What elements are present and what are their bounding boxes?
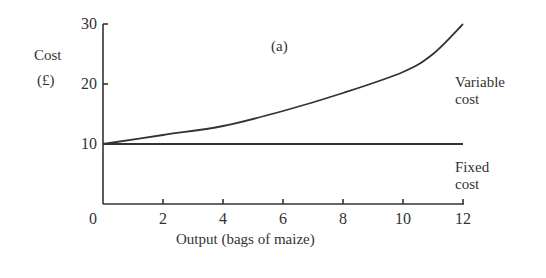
x-axis-label: Output (bags of maize) <box>176 231 315 248</box>
y-tick-label: 20 <box>81 75 97 92</box>
x-tick-label: 6 <box>279 210 287 227</box>
fixed-cost-label-line2: cost <box>455 176 479 193</box>
y-tick-label: 10 <box>81 135 97 152</box>
x-tick-label: 4 <box>219 210 227 227</box>
variable-cost-label-line1: Variable <box>455 74 505 91</box>
x-tick-label: 0 <box>89 210 97 227</box>
y-axis-label-line2: (£) <box>37 72 55 89</box>
y-axis-label-line1: Cost <box>34 47 62 64</box>
x-tick-label: 10 <box>395 210 411 227</box>
chart-title: (a) <box>271 38 288 55</box>
x-tick-label: 8 <box>339 210 347 227</box>
x-tick-label: 2 <box>159 210 167 227</box>
variable-cost-label-line2: cost <box>455 91 479 108</box>
x-tick-label: 12 <box>455 210 471 227</box>
fixed-cost-label-line1: Fixed <box>455 159 489 176</box>
y-tick-label: 30 <box>81 15 97 32</box>
